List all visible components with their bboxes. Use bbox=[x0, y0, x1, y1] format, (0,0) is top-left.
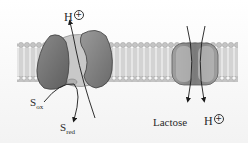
proton-pump-complex bbox=[37, 30, 113, 89]
proton-label-bottom: H+ bbox=[204, 114, 224, 127]
diagram-canvas: H+ Sox Sred Lactose H+ bbox=[0, 0, 248, 143]
positive-charge-icon: + bbox=[74, 10, 84, 20]
lactose-label: Lactose bbox=[153, 117, 187, 128]
substrate-red-subscript: red bbox=[66, 128, 75, 136]
substrate-oxidized-label: Sox bbox=[30, 97, 43, 111]
proton-label-top: H+ bbox=[64, 10, 84, 23]
lactose-text: Lactose bbox=[153, 116, 187, 128]
proton-symbol: H bbox=[64, 10, 73, 24]
lactose-symporter bbox=[172, 43, 218, 85]
proton-symbol: H bbox=[204, 114, 213, 128]
substrate-ox-subscript: ox bbox=[36, 103, 43, 111]
positive-charge-icon: + bbox=[214, 114, 224, 124]
substrate-reduced-label: Sred bbox=[60, 122, 75, 136]
